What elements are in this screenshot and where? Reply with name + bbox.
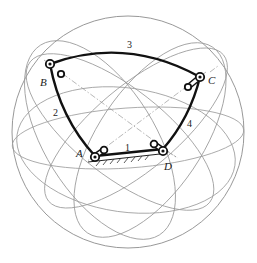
- joint-A: [91, 147, 108, 162]
- joint-C: [185, 73, 204, 90]
- label-joint-A: A: [75, 147, 83, 159]
- label-link-4: 4: [187, 118, 192, 129]
- axis-C-ext: [210, 66, 218, 72]
- link-3-coupler: [50, 53, 200, 77]
- label-joint-C: C: [208, 74, 216, 86]
- links: [50, 53, 200, 156]
- label-link-1: 1: [125, 142, 130, 153]
- link-4-rocker: [163, 77, 200, 149]
- joint-D: [151, 141, 168, 156]
- spherical-linkage-diagram: 3 B C 2 4 A 1 D: [0, 0, 257, 263]
- label-link-3: 3: [127, 39, 132, 50]
- equator-circle: [10, 100, 246, 176]
- label-joint-D: D: [163, 160, 172, 172]
- sphere-outline: [12, 16, 244, 248]
- right-great-circle: [44, 18, 255, 262]
- label-link-2: 2: [53, 107, 58, 118]
- label-joint-B: B: [40, 76, 47, 88]
